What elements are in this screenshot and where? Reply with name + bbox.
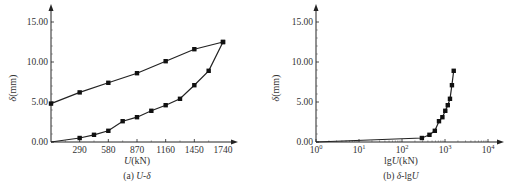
square-marker-icon (206, 69, 210, 73)
x-tick-label: 580 (101, 145, 116, 155)
y-tick-label: 5.00 (31, 97, 48, 107)
y-axis-arrow-icon (314, 4, 319, 11)
x-tick-label: 100 (310, 143, 323, 155)
square-marker-icon (178, 97, 182, 101)
square-marker-icon (443, 109, 447, 113)
square-marker-icon (420, 136, 424, 140)
x-tick-label: 103 (439, 143, 452, 155)
x-tick-label: 290 (73, 145, 88, 155)
chart-panel-delta-lgu: 0.005.0010.0015.00100101102103104 δ(mm) … (270, 4, 504, 182)
square-marker-icon (192, 47, 196, 51)
square-marker-icon (433, 129, 437, 133)
square-marker-icon (135, 115, 139, 119)
square-marker-icon (452, 69, 456, 73)
panel-caption: (a) U-δ (123, 171, 151, 182)
square-marker-icon (446, 103, 450, 107)
x-tick-label: 101 (353, 143, 366, 155)
y-tick-label: 5.00 (296, 97, 313, 107)
figure: 0.005.0010.0015.00290580870116014501740 … (0, 0, 511, 193)
square-marker-icon (440, 115, 444, 119)
y-tick-label: 15.00 (27, 17, 49, 27)
x-axis-label: U(kN) (124, 155, 150, 167)
axes: 0.005.0010.0015.00290580870116014501740 (27, 4, 238, 155)
square-marker-icon (77, 136, 81, 140)
data-series (316, 69, 456, 142)
square-marker-icon (49, 101, 53, 105)
x-tick-label: 1160 (156, 145, 175, 155)
x-axis-arrow-icon (231, 140, 238, 145)
x-tick-label: 1740 (214, 145, 233, 155)
x-tick-label: 102 (396, 143, 409, 155)
series-line-loading (51, 42, 223, 142)
square-marker-icon (106, 129, 110, 133)
axes: 0.005.0010.0015.00100101102103104 (292, 4, 504, 155)
square-marker-icon (120, 119, 124, 123)
square-marker-icon (149, 109, 153, 113)
y-tick-label: 0.00 (31, 137, 48, 147)
square-marker-icon (77, 90, 81, 94)
x-tick-label: 870 (130, 145, 145, 155)
data-series (49, 40, 225, 142)
x-axis-label: lgU(kN) (384, 155, 418, 167)
y-tick-label: 10.00 (292, 57, 314, 67)
square-marker-icon (106, 81, 110, 85)
square-marker-icon (163, 59, 167, 63)
x-tick-label: 1450 (185, 145, 204, 155)
y-axis-arrow-icon (49, 4, 54, 11)
y-tick-label: 15.00 (292, 17, 314, 27)
x-tick-label: 104 (482, 143, 496, 155)
square-marker-icon (450, 83, 454, 87)
chart-panel-u-delta: 0.005.0010.0015.00290580870116014501740 … (7, 4, 238, 182)
panel-caption: (b) δ-lgU (383, 171, 419, 182)
square-marker-icon (92, 133, 96, 137)
x-axis-arrow-icon (497, 140, 504, 145)
square-marker-icon (192, 83, 196, 87)
y-axis-label: δ(mm) (270, 75, 282, 102)
square-marker-icon (437, 119, 441, 123)
square-marker-icon (448, 97, 452, 101)
square-marker-icon (135, 71, 139, 75)
y-tick-label: 10.00 (27, 57, 49, 67)
y-axis-label: δ(mm) (7, 75, 19, 102)
square-marker-icon (427, 133, 431, 137)
axis-labels: δ(mm) lgU(kN) (b) δ-lgU (270, 75, 420, 182)
square-marker-icon (221, 40, 225, 44)
square-marker-icon (163, 103, 167, 107)
